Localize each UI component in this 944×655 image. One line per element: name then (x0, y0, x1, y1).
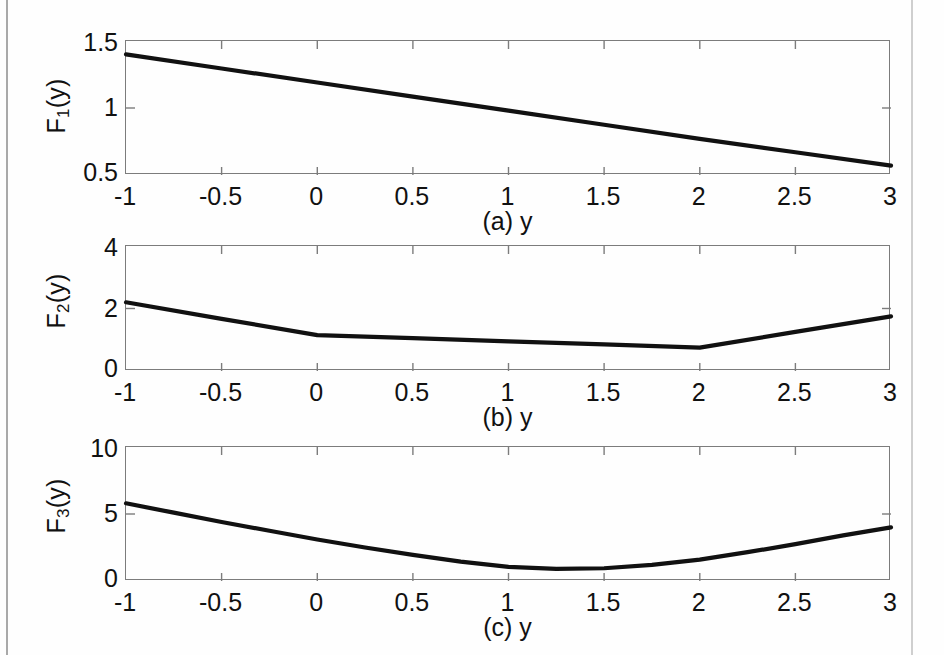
x-tick-c-5: 1.5 (586, 588, 621, 617)
y-tick-a-0: 0.5 (60, 158, 118, 187)
page-border-right (911, 0, 913, 655)
y-tick-a-1: 1 (60, 93, 118, 122)
x-tick-b-8: 3 (883, 378, 897, 407)
x-tick-a-0: -1 (114, 182, 136, 211)
x-tick-a-1: -0.5 (199, 182, 242, 211)
plot-area-a (125, 40, 890, 174)
x-axis-caption-a: (a) y (483, 207, 533, 236)
data-curve-a (126, 54, 891, 165)
x-tick-c-1: -0.5 (199, 588, 242, 617)
x-ticks-c (222, 447, 796, 581)
x-tick-c-0: -1 (114, 588, 136, 617)
x-tick-a-6: 2 (692, 182, 706, 211)
x-tick-c-6: 2 (692, 588, 706, 617)
plot-area-c (125, 446, 890, 580)
x-tick-b-3: 0.5 (395, 378, 430, 407)
x-tick-a-2: 0 (309, 182, 323, 211)
y-tick-c-0: 0 (50, 564, 118, 593)
x-tick-b-7: 2.5 (777, 378, 812, 407)
x-tick-a-3: 0.5 (395, 182, 430, 211)
x-tick-a-8: 3 (883, 182, 897, 211)
x-tick-b-2: 0 (309, 378, 323, 407)
x-tick-c-3: 0.5 (395, 588, 430, 617)
y-tick-b-2: 4 (60, 233, 118, 262)
plot-svg-c (126, 447, 891, 581)
plot-svg-a (126, 41, 891, 175)
x-tick-c-7: 2.5 (777, 588, 812, 617)
y-tick-b-1: 2 (60, 293, 118, 322)
x-tick-a-5: 1.5 (586, 182, 621, 211)
x-tick-b-1: -0.5 (199, 378, 242, 407)
y-tick-c-1: 5 (50, 499, 118, 528)
x-ticks-a (222, 41, 796, 175)
x-tick-a-7: 2.5 (777, 182, 812, 211)
x-tick-b-6: 2 (692, 378, 706, 407)
y-tick-b-0: 0 (60, 354, 118, 383)
y-tick-c-2: 10 (50, 434, 118, 463)
x-axis-caption-b: (b) y (483, 403, 533, 432)
plot-svg-b (126, 246, 891, 371)
x-tick-b-5: 1.5 (586, 378, 621, 407)
x-tick-c-2: 0 (309, 588, 323, 617)
data-curve-c (126, 503, 891, 569)
figure-container: F1(y) 1.5 1 0.5 (0, 0, 944, 655)
data-curve-b (126, 302, 891, 347)
plot-area-b (125, 245, 890, 370)
x-tick-c-8: 3 (883, 588, 897, 617)
page-border-left (6, 0, 8, 655)
x-tick-b-0: -1 (114, 378, 136, 407)
x-axis-caption-c: (c) y (483, 613, 532, 642)
x-ticks-b (222, 246, 796, 371)
y-tick-a-2: 1.5 (60, 28, 118, 57)
